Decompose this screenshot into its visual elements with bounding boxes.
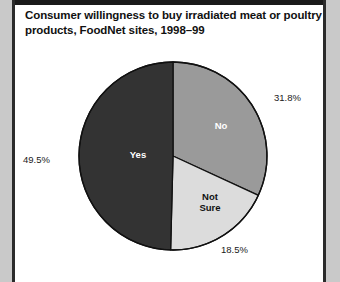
- pie-chart: Yes No Not Sure 31.8% 18.5% 49.5%: [15, 48, 323, 280]
- figure-title-line-2: products, FoodNet sites, 1998–99: [25, 23, 315, 38]
- pie-slice-label-yes: Yes: [115, 149, 161, 160]
- figure-title-line-1: Consumer willingness to buy irradiated m…: [25, 8, 315, 23]
- pie-slice-group: [79, 62, 267, 250]
- pie-value-label-not-sure: 18.5%: [221, 244, 248, 255]
- pie-value-label-no: 31.8%: [274, 92, 301, 103]
- pie-slice-label-no: No: [206, 120, 236, 131]
- figure-container: Consumer willingness to buy irradiated m…: [0, 0, 340, 282]
- frame-right-rule: [323, 0, 326, 282]
- pie-value-label-yes: 49.5%: [23, 154, 50, 165]
- pie-slice-label-not-sure: Not Sure: [190, 191, 230, 213]
- pie-chart-svg: [15, 48, 323, 280]
- figure-title: Consumer willingness to buy irradiated m…: [25, 8, 315, 38]
